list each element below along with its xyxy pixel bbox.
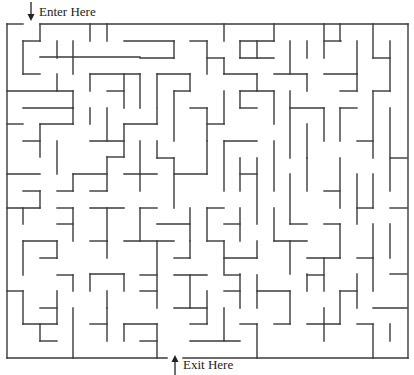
enter-label: Enter Here — [39, 4, 96, 20]
exit-label: Exit Here — [183, 357, 233, 373]
maze-grid — [0, 0, 414, 375]
arrow-down-icon — [26, 2, 36, 22]
arrow-up-icon — [170, 355, 180, 375]
